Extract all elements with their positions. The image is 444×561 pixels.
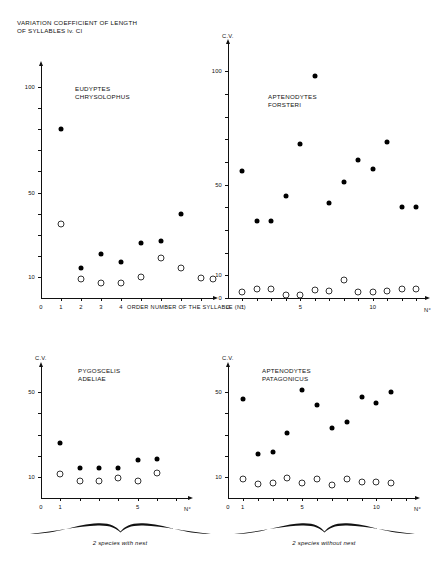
data-point-open: [78, 276, 85, 283]
data-point-open: [369, 289, 376, 296]
data-point-open: [297, 291, 304, 298]
x-tick: [287, 498, 288, 501]
x-tick: [257, 298, 258, 301]
y-tick: [225, 185, 228, 186]
y-tick-label: 0: [194, 295, 222, 301]
y-axis-arrow: [226, 39, 230, 44]
data-point-filled: [270, 449, 275, 454]
y-tick: [38, 256, 41, 257]
y-tick-label: 10: [7, 474, 35, 480]
x-tick: [99, 498, 100, 501]
brace-left-caption: 2 species with nest: [93, 540, 148, 546]
x-tick: [81, 298, 82, 301]
data-point-open: [178, 265, 185, 272]
data-point-open: [388, 480, 395, 487]
data-point-open: [254, 481, 261, 488]
y-tick: [38, 456, 41, 457]
y-tick: [225, 392, 228, 393]
x-axis-arrow: [188, 496, 193, 500]
x-tick-label: 3: [91, 304, 111, 310]
x-axis: [41, 498, 188, 499]
data-point-filled: [255, 451, 260, 456]
data-point-open: [413, 285, 420, 292]
data-point-filled: [99, 251, 104, 256]
x-tick: [121, 298, 122, 301]
data-point-open: [115, 474, 122, 481]
x-tick: [176, 498, 177, 501]
x-tick-label: 10: [366, 504, 386, 510]
data-point-open: [57, 470, 64, 477]
brace-left: [28, 520, 213, 538]
y-tick: [225, 477, 228, 478]
x-tick: [118, 498, 119, 501]
data-point-open: [58, 221, 65, 228]
data-point-open: [343, 475, 350, 482]
x-tick: [344, 298, 345, 301]
y-tick: [225, 230, 228, 231]
data-point-filled: [385, 139, 390, 144]
x-tick: [258, 498, 259, 501]
data-point-filled: [179, 211, 184, 216]
x-tick-label: 5: [128, 504, 148, 510]
data-point-open: [253, 285, 260, 292]
x-tick: [317, 498, 318, 501]
data-point-filled: [344, 419, 349, 424]
x-tick: [80, 498, 81, 501]
y-tick-label: 50: [194, 182, 222, 188]
data-point-filled: [240, 396, 245, 401]
x-tick: [373, 298, 374, 301]
data-point-open: [96, 478, 103, 485]
x-axis-name: N°: [414, 506, 421, 512]
data-point-open: [299, 480, 306, 487]
y-axis-arrow: [39, 362, 43, 367]
x-tick: [376, 498, 377, 501]
y-tick-label: 100: [194, 68, 222, 74]
data-point-open: [311, 287, 318, 294]
y-tick-label: 10: [194, 272, 222, 278]
x-tick: [329, 298, 330, 301]
data-point-filled: [79, 266, 84, 271]
data-point-filled: [327, 200, 332, 205]
data-point-open: [239, 475, 246, 482]
x-axis: [41, 298, 213, 299]
data-point-open: [98, 280, 105, 287]
x-tick: [416, 298, 417, 301]
x-tick: [141, 298, 142, 301]
x-axis-name: N°: [184, 506, 191, 512]
x-tick: [271, 298, 272, 301]
y-tick: [38, 435, 41, 436]
y-tick: [225, 162, 228, 163]
data-point-open: [284, 474, 291, 481]
x-tick: [387, 298, 388, 301]
y-tick: [38, 193, 41, 194]
data-point-open: [154, 469, 161, 476]
x-tick: [300, 298, 301, 301]
y-tick: [225, 207, 228, 208]
data-point-filled: [389, 390, 394, 395]
data-point-open: [239, 289, 246, 296]
data-point-filled: [356, 157, 361, 162]
x-tick: [243, 498, 244, 501]
y-tick: [38, 150, 41, 151]
data-point-filled: [414, 205, 419, 210]
data-point-filled: [359, 394, 364, 399]
x-tick-label: 10: [363, 304, 383, 310]
x-tick: [315, 298, 316, 301]
data-point-open: [358, 479, 365, 486]
y-tick: [38, 214, 41, 215]
data-point-open: [138, 273, 145, 280]
data-point-filled: [269, 218, 274, 223]
series-title: APTENODYTES PATAGONICUS: [262, 367, 311, 383]
x-tick-label: 1: [232, 304, 252, 310]
y-tick: [38, 392, 41, 393]
x-tick: [391, 498, 392, 501]
x-tick-label: 0: [31, 304, 51, 310]
data-point-filled: [399, 205, 404, 210]
y-tick-label: 50: [194, 389, 222, 395]
x-tick: [138, 498, 139, 501]
data-point-filled: [254, 218, 259, 223]
data-point-filled: [285, 430, 290, 435]
x-tick: [242, 298, 243, 301]
y-tick: [225, 456, 228, 457]
data-point-open: [373, 479, 380, 486]
